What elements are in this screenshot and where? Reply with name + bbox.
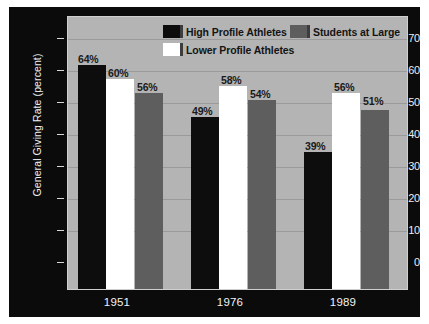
- y-tick-mark-50: [57, 102, 64, 103]
- x-tick-label-1951: 1951: [87, 296, 147, 308]
- bar-value-label-1976-students-at-large: 54%: [250, 88, 270, 100]
- bar-value-label-1989-students-at-large: 51%: [363, 95, 383, 107]
- legend-label-lower-profile-athletes: Lower Profile Athletes: [186, 44, 294, 56]
- bar-value-label-1976-high-profile-athletes: 49%: [192, 105, 212, 117]
- y-tick-mark-20: [57, 198, 64, 199]
- legend-entry-lower-profile-athletes: Lower Profile Athletes: [163, 43, 294, 56]
- bar-1989-high-profile-athletes: [304, 152, 332, 289]
- plot-area: 64% 60% 56% 49% 58% 54% 39% 56% 51% High…: [67, 16, 408, 290]
- bar-1989-students-at-large: [361, 110, 389, 289]
- bar-value-label-1951-students-at-large: 56%: [137, 81, 157, 93]
- bar-1976-high-profile-athletes: [191, 117, 219, 289]
- y-tick-mark-70: [57, 38, 64, 39]
- bar-value-label-1976-lower-profile-athletes: 58%: [221, 74, 241, 86]
- chart-legend: High Profile Athletes Students at Large …: [68, 17, 407, 63]
- bar-1951-high-profile-athletes: [78, 65, 106, 289]
- y-tick-mark-60: [57, 70, 64, 71]
- legend-entry-students-at-large: Students at Large: [290, 25, 400, 38]
- legend-entry-high-profile-athletes: High Profile Athletes: [163, 25, 287, 38]
- chart-figure: General Giving Rate (percent) 70 60 50 4…: [0, 0, 429, 324]
- chart-panel: General Giving Rate (percent) 70 60 50 4…: [9, 7, 420, 317]
- x-tick-label-1976: 1976: [200, 296, 260, 308]
- bar-value-label-1989-high-profile-athletes: 39%: [305, 140, 325, 152]
- legend-swatch-students-at-large: [290, 25, 310, 38]
- bar-1951-students-at-large: [135, 93, 163, 289]
- bar-value-label-1951-lower-profile-athletes: 60%: [108, 67, 128, 79]
- bar-1951-lower-profile-athletes: [106, 79, 134, 289]
- bar-value-label-1989-lower-profile-athletes: 56%: [334, 81, 354, 93]
- y-tick-mark-10: [57, 230, 64, 231]
- legend-swatch-lower-profile-athletes: [163, 43, 183, 56]
- y-tick-mark-30: [57, 166, 64, 167]
- y-tick-mark-40: [57, 134, 64, 135]
- bar-1976-lower-profile-athletes: [219, 86, 247, 289]
- legend-label-students-at-large: Students at Large: [313, 26, 400, 38]
- bar-1989-lower-profile-athletes: [332, 93, 360, 289]
- legend-label-high-profile-athletes: High Profile Athletes: [186, 26, 287, 38]
- legend-swatch-high-profile-athletes: [163, 25, 183, 38]
- y-axis-title: General Giving Rate (percent): [31, 30, 43, 220]
- bar-1976-students-at-large: [248, 100, 276, 289]
- y-tick-mark-0: [57, 262, 64, 263]
- x-tick-label-1989: 1989: [313, 296, 373, 308]
